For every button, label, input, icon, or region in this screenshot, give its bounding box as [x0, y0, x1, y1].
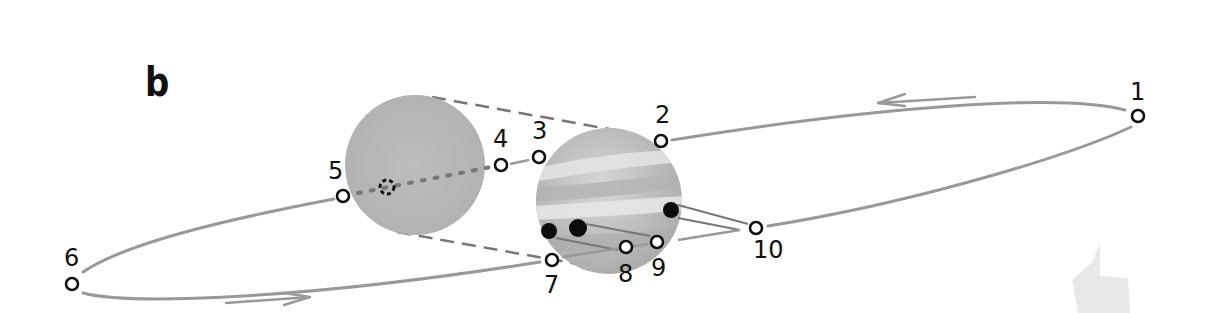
position-label-4: 4 — [493, 127, 508, 151]
position-label-10: 10 — [753, 238, 784, 262]
position-label-6: 6 — [64, 246, 79, 270]
moon-position-1-icon — [1132, 110, 1144, 122]
moon-position-6-icon — [66, 278, 78, 290]
position-label-8: 8 — [618, 262, 633, 286]
orbit-bottom-path — [83, 262, 540, 299]
orbit-segment-3-4 — [510, 160, 529, 164]
corner-mark — [1072, 244, 1130, 313]
shadow-line-10-a — [678, 205, 748, 224]
moon-position-3-icon — [533, 151, 545, 163]
orbit-upper-path — [672, 102, 1125, 140]
moon-position-9-icon — [651, 236, 663, 248]
shadow-spot — [663, 202, 679, 218]
orbit-left-upper-path — [83, 199, 334, 272]
moon-position-4-icon — [495, 159, 507, 171]
shadow-spot — [569, 219, 587, 237]
position-label-2: 2 — [655, 103, 670, 127]
moon-position-8-icon — [620, 241, 632, 253]
moon-position-2-icon — [655, 135, 667, 147]
shadow-spot — [541, 223, 557, 239]
position-label-7: 7 — [544, 273, 559, 297]
position-label-3: 3 — [532, 119, 547, 143]
position-label-9: 9 — [651, 256, 666, 280]
orbit-diagram: b 1 2 3 4 5 6 7 8 9 10 — [0, 0, 1210, 313]
position-label-1: 1 — [1130, 80, 1145, 104]
moon-position-10-icon — [750, 222, 762, 234]
moon-position-5-icon — [337, 190, 349, 202]
diagram-canvas — [0, 0, 1210, 313]
orbit-segment-9-10 — [678, 230, 740, 240]
jupiter-shadow-disk — [345, 95, 485, 235]
panel-label: b — [145, 62, 169, 102]
jupiter-planet — [530, 128, 690, 274]
position-label-5: 5 — [328, 159, 343, 183]
orbit-lower-right-path — [768, 127, 1131, 226]
moon-position-7-icon — [546, 254, 558, 266]
